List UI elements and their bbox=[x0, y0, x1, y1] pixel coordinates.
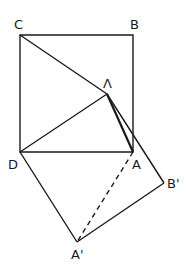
square-cbad bbox=[20, 35, 133, 152]
segment-bprime-aprime bbox=[77, 183, 164, 242]
label-d: D bbox=[8, 157, 18, 172]
segment-apex-a bbox=[107, 94, 133, 152]
segment-d-aprime bbox=[20, 152, 77, 242]
label-apex: Λ bbox=[103, 76, 112, 91]
segment-d-apex bbox=[20, 94, 107, 152]
segment-c-apex bbox=[20, 35, 107, 94]
label-b: B bbox=[130, 17, 139, 32]
label-aprime: A' bbox=[71, 247, 83, 262]
label-c: C bbox=[14, 17, 23, 32]
label-bprime: B' bbox=[167, 176, 180, 191]
label-a: A bbox=[132, 157, 141, 172]
geometry-diagram: C B Λ D A B' A' bbox=[0, 0, 190, 274]
segment-a-aprime-dashed bbox=[77, 152, 133, 242]
